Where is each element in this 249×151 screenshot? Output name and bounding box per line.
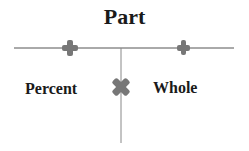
plus-icon (177, 40, 190, 55)
plus-icon (62, 40, 78, 56)
diagram-lines (0, 0, 249, 151)
whole-label: Whole (153, 79, 197, 97)
percent-label: Percent (25, 80, 77, 98)
